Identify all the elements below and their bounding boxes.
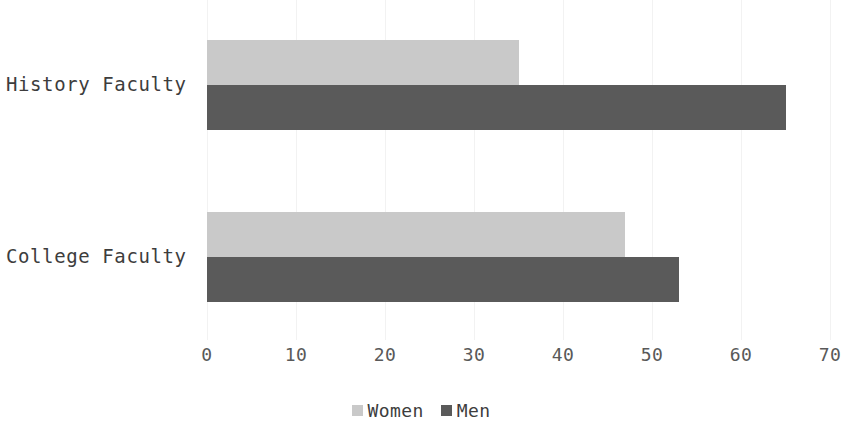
x-tick-label-70: 70 (800, 344, 842, 365)
legend-label: Women (368, 400, 424, 421)
x-tick-label-60: 60 (711, 344, 771, 365)
x-tick-label-30: 30 (444, 344, 504, 365)
x-tick-label-50: 50 (622, 344, 682, 365)
x-tick-label-10: 10 (266, 344, 326, 365)
category-label-college-faculty: College Faculty (6, 245, 198, 267)
bar-chart: History FacultyCollege Faculty 010203040… (0, 0, 842, 425)
x-tick-label-0: 0 (177, 344, 237, 365)
x-axis: 010203040506070 (0, 340, 842, 380)
plot-area (0, 0, 842, 340)
bar-college-faculty-women (207, 212, 625, 257)
legend-label: Men (457, 400, 491, 421)
legend-swatch-icon-men (441, 405, 452, 416)
gridline (830, 0, 831, 340)
category-label-history-faculty: History Faculty (6, 73, 198, 95)
legend-swatch-icon-women (352, 405, 363, 416)
bar-history-faculty-women (207, 40, 519, 85)
gridline (741, 0, 742, 340)
legend-item-men[interactable]: Men (441, 400, 491, 421)
x-tick-label-20: 20 (355, 344, 415, 365)
legend-item-women[interactable]: Women (352, 400, 424, 421)
bar-history-faculty-men (207, 85, 786, 130)
x-tick-label-40: 40 (533, 344, 593, 365)
bar-college-faculty-men (207, 257, 679, 302)
chart-legend: WomenMen (0, 396, 842, 424)
